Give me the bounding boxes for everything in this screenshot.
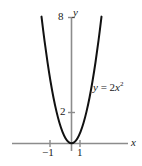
x-axis-tick-label-1: 1: [77, 147, 83, 158]
parabola-figure: 8 2 −1 1 y x y = 2x2: [0, 0, 142, 166]
x-axis-name-label: x: [131, 137, 136, 148]
y-axis-tick-label-2: 2: [60, 106, 66, 117]
y-axis-tick-label-8: 8: [58, 11, 64, 22]
x-axis-tick-label-neg1: −1: [42, 147, 54, 158]
curve-eq-exponent: 2: [120, 80, 124, 88]
curve-equation-label: y = 2x2: [93, 82, 124, 93]
y-axis-name-label: y: [73, 7, 78, 18]
curve-eq-equals: =: [101, 81, 107, 93]
